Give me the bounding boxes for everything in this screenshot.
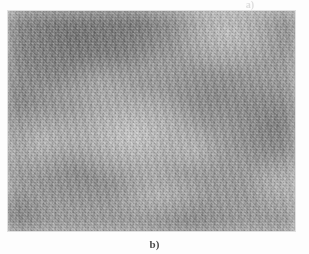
texture-mottle-layer xyxy=(8,11,295,231)
texture-vignette-layer xyxy=(8,11,295,231)
texture-dark-blobs-layer xyxy=(8,11,295,231)
figure-caption-b: b) xyxy=(0,238,309,251)
texture-grain-layer xyxy=(8,11,295,231)
texture-light-blobs-layer xyxy=(8,11,295,231)
bleed-through-label-a: a) xyxy=(239,0,261,11)
figure-page: a) b) xyxy=(0,0,309,254)
grayscale-texture-image-panel xyxy=(8,11,295,231)
texture-grain-layer-fine xyxy=(8,11,295,231)
